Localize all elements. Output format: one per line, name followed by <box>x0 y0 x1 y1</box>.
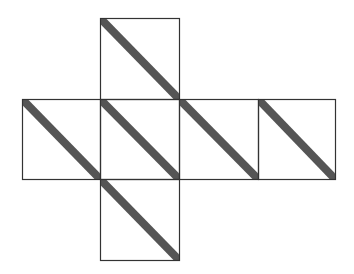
face-center <box>100 99 180 180</box>
face-left <box>22 99 101 180</box>
face-bottom <box>100 179 180 261</box>
cube-net-diagram <box>0 0 354 274</box>
diagonal-stripe <box>100 18 179 99</box>
face-top <box>100 18 180 100</box>
diagonal-stripe <box>100 179 179 260</box>
face-far-right <box>258 99 336 180</box>
face-right <box>179 99 259 180</box>
diagonal-stripe <box>179 99 258 179</box>
diagonal-stripe <box>258 99 335 179</box>
diagonal-stripe <box>100 99 179 179</box>
diagonal-stripe <box>22 99 100 179</box>
